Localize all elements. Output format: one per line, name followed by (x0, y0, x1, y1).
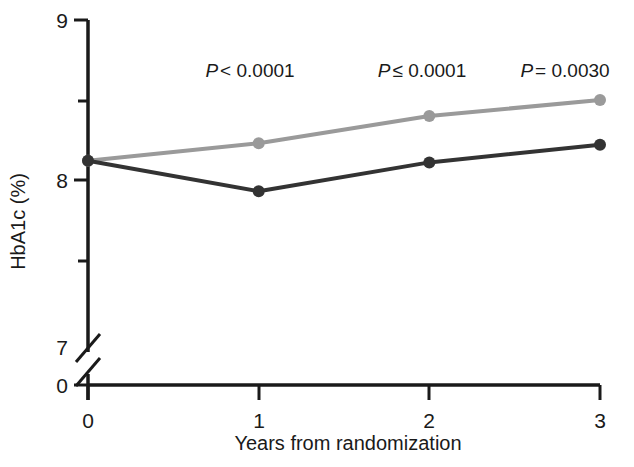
pvalue-operator-year2: ≤ (392, 60, 402, 81)
pvalue-label-year3: P (520, 60, 535, 81)
data-point-intensive-therapy-year-1 (253, 185, 265, 197)
x-tick-label-3: 3 (594, 410, 606, 431)
x-axis-title: Years from randomization (88, 432, 608, 455)
series-group (82, 94, 606, 197)
data-point-intensive-therapy-year-3 (594, 139, 606, 151)
data-point-standard-therapy-year-2 (423, 110, 435, 122)
y-tick-label-9: 9 (44, 10, 68, 31)
pvalue-value-year1: 0.0001 (236, 60, 294, 81)
data-point-standard-therapy-year-1 (253, 137, 265, 149)
y-axis-title: HbA1c (%) (7, 142, 30, 302)
pvalue-operator-year1: < (220, 60, 231, 81)
pvalue-operator-year3: = (535, 60, 546, 81)
hba1c-line-chart: 9 8 7 0 0 1 2 3 HbA1c (%) Years from ran… (0, 0, 634, 467)
x-tick-label-0: 0 (82, 410, 94, 431)
pvalue-value-year3: 0.0030 (551, 60, 609, 81)
y-tick-label-8: 8 (44, 170, 68, 191)
pvalue-value-year2: 0.0001 (408, 60, 466, 81)
data-point-standard-therapy-year-3 (594, 94, 606, 106)
y-tick-label-7: 7 (44, 337, 68, 358)
pvalue-annotation-year3: P= 0.0030 (520, 60, 609, 82)
data-point-intensive-therapy-year-0 (82, 155, 94, 167)
y-tick-label-0: 0 (44, 375, 68, 396)
x-tick-label-2: 2 (423, 410, 435, 431)
pvalue-annotation-year2: P≤ 0.0001 (378, 60, 467, 82)
x-tick-label-1: 1 (253, 410, 265, 431)
data-point-intensive-therapy-year-2 (423, 156, 435, 168)
pvalue-annotation-year1: P< 0.0001 (205, 60, 294, 82)
pvalue-label-year1: P (205, 60, 220, 81)
pvalue-label-year2: P (378, 60, 393, 81)
